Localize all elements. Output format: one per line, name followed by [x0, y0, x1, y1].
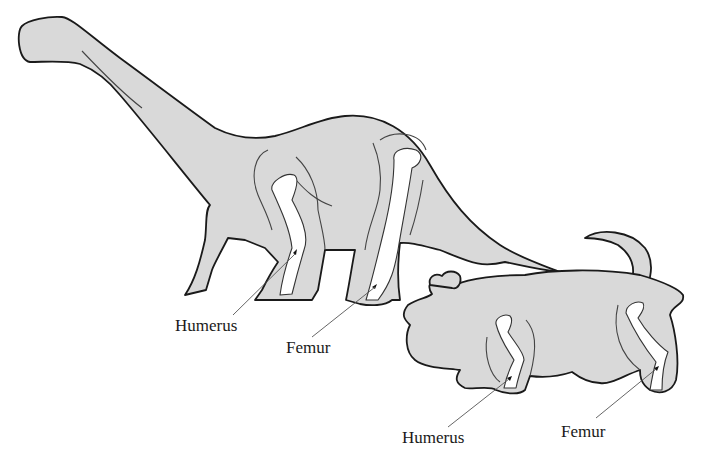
hippo-figure: [404, 232, 683, 393]
sauropod-femur-label: Femur: [286, 338, 330, 358]
sauropod-femur-leader: [312, 287, 375, 337]
diagram-canvas: Humerus Femur Humerus Femur: [0, 0, 705, 465]
hippo-ear: [430, 272, 461, 289]
hippo-femur-label: Femur: [561, 422, 605, 442]
hippo-humerus-label: Humerus: [402, 428, 464, 448]
illustration: [0, 0, 705, 465]
sauropod-humerus-label: Humerus: [175, 316, 237, 336]
sauropod-figure: [19, 17, 560, 305]
